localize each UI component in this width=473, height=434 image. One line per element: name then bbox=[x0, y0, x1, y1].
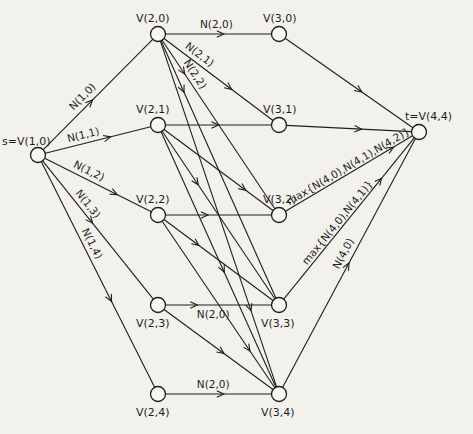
node-v31: V(3,1) bbox=[263, 103, 297, 133]
node-v23: V(2,3) bbox=[136, 298, 170, 331]
node-label: s=V(1,0) bbox=[2, 135, 51, 148]
edge-v22-v33 bbox=[164, 219, 273, 300]
edge-line bbox=[160, 41, 276, 387]
node-label: V(2,1) bbox=[136, 103, 170, 116]
node-circle bbox=[31, 148, 46, 163]
node-v24: V(2,4) bbox=[136, 387, 170, 420]
node-label: V(3,2) bbox=[263, 193, 297, 206]
node-label: V(2,2) bbox=[136, 193, 170, 206]
node-circle bbox=[151, 118, 166, 133]
edge-v20-v30: N(2,0) bbox=[166, 18, 272, 37]
edge-v20-v31: N(2,1) bbox=[164, 39, 273, 121]
node-v20: V(2,0) bbox=[136, 12, 170, 42]
node-circle bbox=[151, 208, 166, 223]
node-label: V(3,0) bbox=[263, 12, 297, 25]
node-v34: V(3,4) bbox=[261, 387, 295, 420]
node-circle bbox=[272, 27, 287, 42]
arrowhead-icon bbox=[192, 177, 199, 185]
edge-line bbox=[164, 129, 273, 210]
node-circle bbox=[272, 387, 287, 402]
node-v30: V(3,0) bbox=[263, 12, 297, 42]
edge-label: max{N(4,0),N(4,1),N(4,2)} bbox=[284, 125, 412, 207]
edge-label: N(2,0) bbox=[197, 308, 230, 320]
edge-line bbox=[164, 39, 273, 121]
edge-v21-v31 bbox=[166, 122, 272, 128]
node-circle bbox=[272, 118, 287, 133]
arrowhead-icon bbox=[178, 66, 185, 74]
edge-line bbox=[285, 38, 413, 127]
dynamic-programming-graph: N(1,0)N(1,1)N(1,2)N(1,3)N(1,4)N(2,0)N(2,… bbox=[0, 0, 473, 434]
node-circle bbox=[151, 387, 166, 402]
node-v22: V(2,2) bbox=[136, 193, 170, 223]
edge-v24-v34: N(2,0) bbox=[166, 378, 272, 397]
edge-label: N(1,0) bbox=[66, 80, 98, 112]
node-v21: V(2,1) bbox=[136, 103, 170, 133]
edge-s-v21: N(1,1) bbox=[45, 125, 150, 154]
node-v33: V(3,3) bbox=[261, 298, 295, 331]
node-label: V(3,3) bbox=[261, 317, 295, 330]
edge-label: N(1,2) bbox=[72, 158, 107, 183]
edges-layer: N(1,0)N(1,1)N(1,2)N(1,3)N(1,4)N(2,0)N(2,… bbox=[41, 18, 415, 397]
node-circle bbox=[272, 208, 287, 223]
node-label: V(2,3) bbox=[136, 317, 170, 330]
arrowhead-icon bbox=[243, 344, 250, 352]
edge-line bbox=[164, 219, 273, 300]
node-circle bbox=[151, 27, 166, 42]
edge-label: N(4,0) bbox=[330, 236, 356, 271]
edge-v31-t bbox=[286, 125, 411, 132]
node-t: t=V(4,4) bbox=[405, 110, 452, 140]
node-circle bbox=[412, 125, 427, 140]
edge-v30-t bbox=[285, 38, 413, 127]
edge-line bbox=[286, 125, 411, 131]
node-label: V(2,0) bbox=[136, 12, 170, 25]
node-label: V(3,4) bbox=[261, 406, 295, 419]
edge-label: N(2,0) bbox=[200, 18, 233, 30]
edge-label: N(1,4) bbox=[80, 226, 105, 261]
edge-label: N(1,1) bbox=[66, 125, 101, 145]
node-s: s=V(1,0) bbox=[2, 135, 51, 163]
edge-label: N(2,0) bbox=[197, 378, 230, 390]
node-label: V(3,1) bbox=[263, 103, 297, 116]
node-label: V(2,4) bbox=[136, 406, 170, 419]
edge-v21-v32 bbox=[164, 129, 273, 210]
edge-v20-v34 bbox=[160, 41, 276, 387]
edge-label: N(1,3) bbox=[74, 187, 104, 220]
edge-v23-v33: N(2,0) bbox=[166, 302, 272, 320]
node-label: t=V(4,4) bbox=[405, 110, 452, 123]
node-circle bbox=[151, 298, 166, 313]
node-circle bbox=[272, 298, 287, 313]
